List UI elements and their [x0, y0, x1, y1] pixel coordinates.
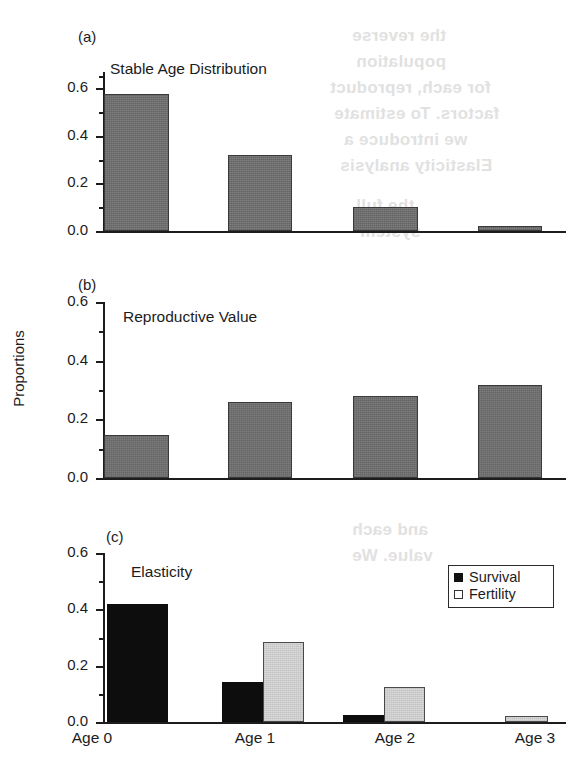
panel-c-tag: (c): [106, 528, 124, 545]
legend-label-fertility: Fertility: [469, 586, 516, 603]
panel-c-ytick-1: 0.2: [48, 656, 88, 673]
panel-c: (c) Elasticity 0.0 0.2 0.4 0.6 Age 0 Age…: [0, 0, 584, 781]
hollow-square-icon: [454, 590, 463, 599]
filled-square-icon: [454, 573, 463, 582]
tick-major: [96, 553, 103, 555]
panel-c-ytick-3: 0.6: [48, 543, 88, 560]
bar-survival-age1: [222, 682, 263, 722]
xtick-label-age1: Age 1: [210, 729, 300, 747]
xtick-label-age0: Age 0: [47, 729, 137, 747]
tick-minor: [99, 694, 103, 696]
figure-root: the reverse population for each, reprodu…: [0, 0, 584, 781]
bar-survival-age0: [107, 604, 168, 722]
xtick-label-age3: Age 3: [490, 729, 580, 747]
panel-c-x-axis: [103, 722, 566, 724]
tick-minor: [99, 638, 103, 640]
panel-c-ytick-0: 0.0: [48, 712, 88, 729]
panel-c-y-axis: [103, 553, 105, 723]
bar-fertility-age3: [505, 716, 548, 722]
legend-item-fertility: Fertility: [454, 586, 546, 603]
chart-legend: Survival Fertility: [448, 565, 554, 608]
xtick-label-age2: Age 2: [350, 729, 440, 747]
bar-survival-age2: [343, 715, 384, 722]
panel-c-ytick-2: 0.4: [48, 599, 88, 616]
bar-fertility-age2: [384, 687, 425, 722]
tick-major: [96, 722, 103, 724]
tick-major: [96, 609, 103, 611]
legend-label-survival: Survival: [469, 569, 521, 586]
panel-c-title: Elasticity: [131, 563, 192, 581]
tick-major: [96, 666, 103, 668]
legend-item-survival: Survival: [454, 569, 546, 586]
tick-minor: [99, 581, 103, 583]
bar-fertility-age1: [263, 642, 304, 722]
